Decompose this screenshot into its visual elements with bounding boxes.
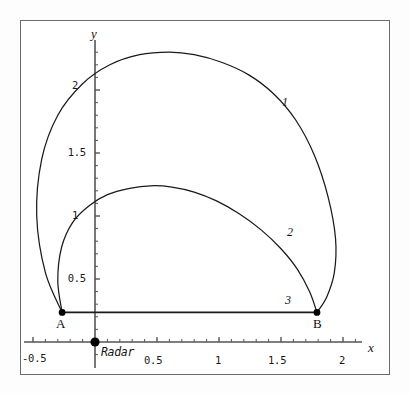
x-tick-1: 1 xyxy=(215,354,221,366)
point-label-a: A xyxy=(56,316,65,332)
x-tick-0-5: 0.5 xyxy=(144,354,162,366)
x-tick-neg-0-5: -0.5 xyxy=(22,352,47,364)
x-tick-2: 2 xyxy=(339,354,345,366)
x-axis-label: x xyxy=(368,340,374,356)
plot-frame xyxy=(20,20,390,375)
curve-label-2: 2 xyxy=(287,225,293,240)
radar-label: Radar xyxy=(101,345,134,359)
y-tick-1-5: 1.5 xyxy=(68,146,86,158)
y-tick-1: 1 xyxy=(72,209,78,221)
figure-root: 2 1.5 1 0.5 -0.5 0.5 1 1.5 2 y x A B Rad… xyxy=(0,0,409,393)
y-tick-0-5: 0.5 xyxy=(68,272,86,284)
point-label-b: B xyxy=(313,316,322,332)
y-axis-label: y xyxy=(91,26,97,42)
curve-label-1: 1 xyxy=(282,95,288,110)
x-tick-1-5: 1.5 xyxy=(268,354,286,366)
y-tick-2: 2 xyxy=(72,79,78,91)
curve-label-3: 3 xyxy=(285,293,291,308)
